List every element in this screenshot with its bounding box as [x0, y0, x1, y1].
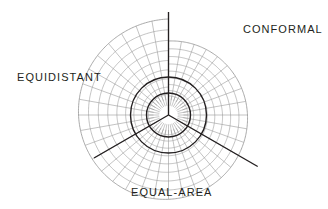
projection-property-figure: CONFORMAL EQUIDISTANT EQUAL-AREA [0, 0, 328, 209]
label-equidistant: EQUIDISTANT [17, 72, 102, 83]
label-equal-area: EQUAL-AREA [131, 187, 212, 198]
grid-layer [78, 19, 247, 199]
label-conformal: CONFORMAL [243, 24, 323, 35]
